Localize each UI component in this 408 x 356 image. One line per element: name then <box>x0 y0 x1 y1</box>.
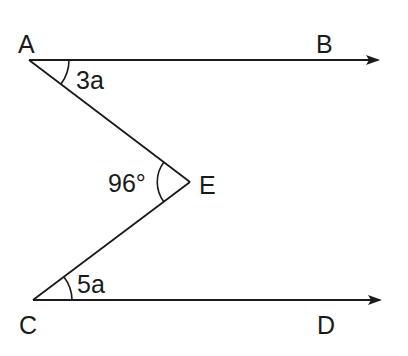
angle-arc-e <box>157 162 164 202</box>
angle-arc-c <box>64 277 72 300</box>
point-label-d: D <box>317 311 335 339</box>
segment-ae <box>29 60 190 182</box>
angle-label-a: 3a <box>76 66 104 94</box>
angle-label-c: 5a <box>77 270 105 298</box>
point-label-a: A <box>18 30 35 58</box>
segment-ec <box>33 182 190 300</box>
angle-label-e: 96° <box>108 169 146 197</box>
geometry-figure: A B E C D 3a 96° 5a <box>0 0 408 356</box>
point-label-e: E <box>199 171 216 199</box>
angle-arc-a <box>61 60 69 84</box>
point-label-b: B <box>316 30 333 58</box>
point-label-c: C <box>19 311 37 339</box>
